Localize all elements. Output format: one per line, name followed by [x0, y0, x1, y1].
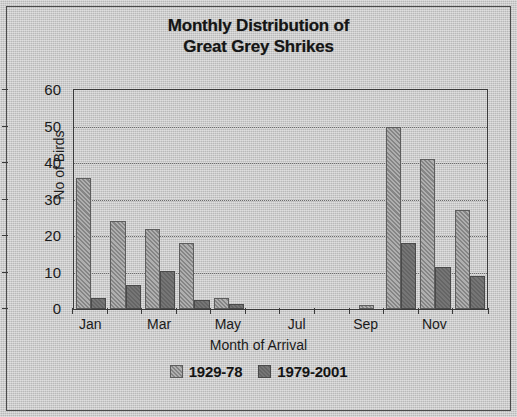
bar-group [281, 90, 315, 309]
x-axis-tick-mark [453, 308, 488, 316]
y-axis-tick-label: 60 [44, 81, 61, 98]
bar[interactable] [110, 221, 125, 309]
legend-item[interactable]: 1979-2001 [258, 363, 347, 380]
bar[interactable] [160, 271, 175, 309]
x-axis-tick-mark [419, 308, 454, 316]
x-axis-tick-mark [108, 308, 143, 316]
bar-group [212, 90, 246, 309]
bar[interactable] [420, 159, 435, 309]
bar[interactable] [455, 210, 470, 309]
y-axis-tick-label: 0 [53, 300, 61, 317]
legend-label: 1929-78 [189, 363, 243, 380]
x-axis-tick-labels: JanMarMayJulSepNov [73, 316, 486, 336]
x-axis-tick-label [452, 316, 486, 336]
x-axis-tick-mark [350, 308, 385, 316]
bar[interactable] [435, 267, 450, 309]
x-axis-tick-mark [315, 308, 350, 316]
x-axis-tick-mark [211, 308, 246, 316]
x-axis-tick-mark [142, 308, 177, 316]
bar[interactable] [179, 243, 194, 309]
chart-plate: Monthly Distribution of Great Grey Shrik… [6, 6, 511, 411]
x-axis-tick-label: May [211, 316, 245, 336]
x-axis-tick-mark [73, 308, 108, 316]
x-axis-tick-label [383, 316, 417, 336]
bar[interactable] [145, 229, 160, 309]
y-axis-tick-label: 40 [44, 154, 61, 171]
bar[interactable] [76, 178, 91, 309]
plot-area [73, 89, 488, 310]
bar[interactable] [401, 243, 416, 309]
chart-title: Monthly Distribution of Great Grey Shrik… [7, 15, 510, 57]
x-axis-tick-mark [384, 308, 419, 316]
x-axis-tick-label [176, 316, 210, 336]
y-axis-tick-labels: 6050403020100 [7, 89, 69, 308]
x-axis-tick-label [314, 316, 348, 336]
bar-group [349, 90, 383, 309]
x-axis-tick-mark [177, 308, 212, 316]
x-axis-ticks [73, 308, 488, 316]
bar-group [74, 90, 108, 309]
bar-group [246, 90, 280, 309]
bar-group [384, 90, 418, 309]
bar-group [108, 90, 142, 309]
bar[interactable] [126, 285, 141, 309]
bar[interactable] [470, 276, 485, 309]
x-axis-tick-label: Mar [142, 316, 176, 336]
x-axis-title: Month of Arrival [7, 337, 510, 353]
legend-swatch-icon [258, 365, 271, 378]
legend-swatch-icon [170, 365, 183, 378]
x-axis-tick-label: Sep [348, 316, 382, 336]
y-axis-tick-label: 20 [44, 227, 61, 244]
x-axis-tick-mark [280, 308, 315, 316]
y-axis-tick-label: 10 [44, 263, 61, 280]
figure-background: Monthly Distribution of Great Grey Shrik… [0, 0, 517, 417]
x-axis-tick-mark [246, 308, 281, 316]
bar-group [453, 90, 487, 309]
y-axis-tick-mark [2, 126, 8, 127]
chart-legend: 1929-781979-2001 [7, 363, 510, 380]
y-axis-tick-mark [2, 199, 8, 200]
x-axis-tick-label [245, 316, 279, 336]
y-axis-tick-mark [2, 235, 8, 236]
y-axis-tick-label: 50 [44, 117, 61, 134]
y-axis-tick-mark [2, 89, 8, 90]
y-axis-tick-mark [2, 162, 8, 163]
y-axis-tick-mark [2, 308, 8, 309]
legend-item[interactable]: 1929-78 [170, 363, 243, 380]
x-axis-tick-label: Jan [73, 316, 107, 336]
x-axis-tick-label [107, 316, 141, 336]
chart-title-line-2: Great Grey Shrikes [7, 36, 510, 57]
chart-title-line-1: Monthly Distribution of [168, 16, 349, 35]
x-axis-tick-label: Nov [417, 316, 451, 336]
bar-group [177, 90, 211, 309]
y-axis-tick-mark [2, 272, 8, 273]
legend-label: 1979-2001 [277, 363, 347, 380]
bar-series-container [74, 90, 487, 309]
x-axis-tick-label: Jul [280, 316, 314, 336]
bar-group [418, 90, 452, 309]
bar-group [315, 90, 349, 309]
y-axis-tick-label: 30 [44, 190, 61, 207]
bar[interactable] [386, 127, 401, 310]
bar-group [143, 90, 177, 309]
